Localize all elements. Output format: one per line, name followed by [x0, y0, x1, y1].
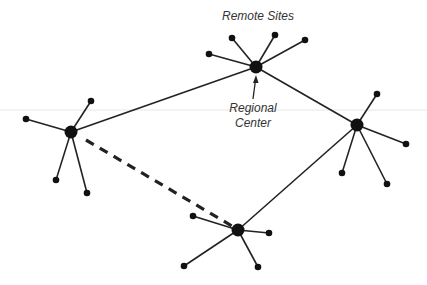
remote-site-node	[302, 37, 309, 44]
remote-site-node	[84, 190, 91, 197]
remote-site-node	[255, 264, 262, 271]
link-top-right	[256, 67, 357, 125]
remote-site-node	[53, 177, 60, 184]
remote-sites-label: Remote Sites	[222, 9, 294, 23]
remote-site-node	[181, 263, 188, 270]
regional-center-node	[351, 119, 364, 132]
diagram-svg: Remote Sites Regional Center	[0, 0, 427, 285]
link-right-bottom	[238, 125, 357, 230]
remote-site-node	[339, 170, 346, 177]
regional-center-label-line1: Regional	[229, 101, 277, 115]
remote-site-node	[266, 230, 273, 237]
regional-center-node	[232, 224, 245, 237]
hub-top	[206, 32, 309, 74]
link-left-bottom-dashed	[86, 140, 232, 226]
regional-center-label-line2: Center	[235, 116, 272, 130]
remote-site-node	[206, 51, 213, 58]
backbone-links	[71, 67, 357, 230]
regional-center-node	[65, 126, 78, 139]
remote-site-node	[88, 98, 95, 105]
arrow-head-icon	[253, 75, 259, 83]
remote-site-node	[190, 213, 197, 220]
link-left-top	[71, 67, 256, 132]
remote-site-node	[403, 141, 410, 148]
remote-site-node	[229, 35, 236, 42]
regional-center-node	[250, 61, 263, 74]
regional-center-arrow	[253, 75, 259, 99]
hub-right	[339, 91, 410, 188]
remote-site-node	[374, 91, 381, 98]
remote-site-node	[272, 32, 279, 39]
remote-site-node	[23, 116, 30, 123]
network-diagram: Remote Sites Regional Center	[0, 0, 427, 285]
hub-left	[23, 98, 95, 197]
remote-site-node	[384, 181, 391, 188]
